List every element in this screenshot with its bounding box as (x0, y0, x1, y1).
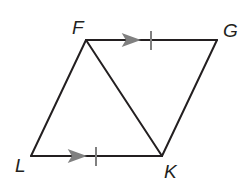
vertex-label-f: F (72, 17, 85, 38)
vertex-label-l: L (15, 155, 26, 176)
vertex-label-k: K (164, 161, 178, 180)
segment-fk (86, 40, 162, 156)
parallel-arrow-icon-lk (70, 151, 84, 161)
vertex-label-g: G (223, 20, 238, 41)
parallelogram-diagram: F G L K (0, 0, 251, 180)
segment-gk (162, 40, 217, 156)
segment-lf (31, 40, 86, 156)
parallel-arrow-icon-fg (124, 35, 138, 45)
